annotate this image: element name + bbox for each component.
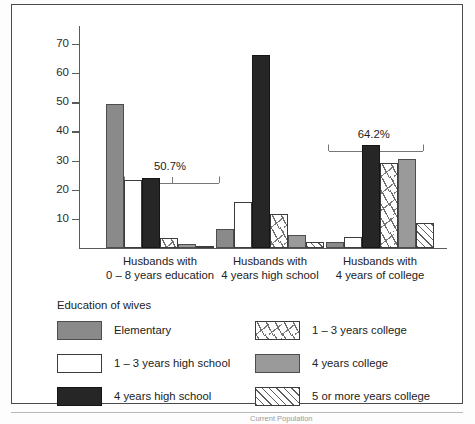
legend-title: Education of wives [57,299,151,311]
legend-swatch [255,387,300,406]
y-axis-tick [72,102,79,103]
y-axis-tick-label: 30 [56,155,69,166]
x-axis-group-label-line: 4 years of college [300,269,460,283]
y-axis-tick-labels: 10203040506070 [0,26,69,249]
y-axis-tick [72,131,79,132]
bar [326,242,344,247]
annotation-label: 64.2% [358,128,390,140]
bar [398,159,416,248]
figure: Percentage of males 10203040506070 50.7%… [0,0,475,424]
y-axis-tick [72,73,79,74]
x-axis-group-label-line: Husbands with [300,255,460,269]
bar [344,237,362,248]
y-axis-tick-label: 60 [56,67,69,78]
bar [196,246,214,248]
y-axis-tick-label: 70 [56,38,69,49]
legend-label: 1 – 3 years high school [114,357,230,369]
legend-swatch [57,321,102,340]
legend-swatch [255,354,300,373]
legend-label: Elementary [114,324,171,336]
y-axis-tick-label: 50 [56,96,69,107]
y-axis-tick-label: 10 [56,213,69,224]
legend-swatch [255,321,300,340]
bar [142,178,160,248]
x-axis-line [79,248,447,249]
legend-label: 4 years high school [114,390,211,402]
bar [288,235,306,247]
bar [252,55,270,247]
legend-label: 4 years college [312,357,388,369]
y-axis-tick [72,161,79,162]
annotation-label: 50.7% [154,160,186,172]
bar [106,104,124,248]
legend-label: 5 or more years college [312,390,430,402]
y-axis-tick-label: 20 [56,184,69,195]
bar [216,229,234,247]
legend-swatch [57,387,102,406]
bar [362,145,380,247]
legend: Education of wives Elementary1 – 3 years… [57,299,447,399]
legend-label: 1 – 3 years college [312,324,407,336]
bar [160,238,178,248]
plot-area: 50.7%64.2% [79,26,447,249]
legend-swatch [57,354,102,373]
page-caption: Current Population [250,414,460,423]
x-axis-group-label: Husbands with4 years of college [300,255,460,282]
bar [306,242,324,247]
y-axis-line [79,26,80,249]
y-axis-tick [72,190,79,191]
page-rule [11,412,463,413]
y-axis-tick [72,44,79,45]
y-axis-tick-label: 40 [56,125,69,136]
bar [234,202,252,247]
bar [270,214,288,247]
bar [178,244,196,247]
bar [416,223,434,248]
bar [380,163,398,247]
bar [124,180,142,248]
y-axis-tick [72,219,79,220]
